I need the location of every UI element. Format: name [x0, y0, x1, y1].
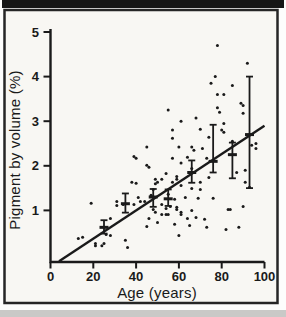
data-point: [173, 198, 176, 201]
data-point: [205, 226, 208, 229]
data-point: [130, 181, 133, 184]
data-point: [171, 137, 174, 140]
data-point: [175, 178, 178, 181]
data-point: [145, 225, 148, 228]
data-point: [115, 200, 118, 203]
data-point: [180, 211, 183, 214]
data-point: [160, 213, 163, 216]
data-point: [235, 171, 238, 174]
x-tick-label: 80: [214, 269, 228, 284]
data-point: [224, 228, 227, 231]
data-point: [242, 104, 245, 107]
data-point: [109, 234, 112, 237]
data-point: [90, 202, 93, 205]
data-point: [190, 209, 193, 212]
figure-frame: [5, 10, 278, 303]
x-tick-label: 20: [86, 269, 100, 284]
data-point: [171, 129, 174, 132]
y-tick-label: 3: [32, 114, 39, 129]
y-tick-label: 2: [32, 158, 39, 173]
data-point: [244, 181, 247, 184]
x-tick-label: 0: [47, 269, 54, 284]
data-point: [124, 239, 127, 242]
data-point: [207, 176, 210, 179]
data-point: [244, 169, 247, 172]
data-point: [171, 181, 174, 184]
data-point: [180, 184, 183, 187]
data-point: [167, 213, 170, 216]
data-point: [205, 157, 208, 160]
data-point: [171, 157, 174, 160]
data-point: [165, 172, 168, 175]
data-point: [218, 111, 221, 114]
data-point: [216, 93, 219, 96]
data-point: [173, 223, 176, 226]
data-point: [126, 246, 129, 249]
x-axis-title: Age (years): [117, 284, 197, 301]
data-point: [177, 146, 180, 149]
data-point: [115, 204, 118, 207]
data-point: [94, 242, 97, 245]
data-point: [222, 122, 225, 125]
data-point: [192, 149, 195, 152]
data-point: [103, 242, 106, 245]
scatter-plot: 12345020406080100 Age (years) Pigment by…: [0, 0, 286, 317]
data-point: [222, 131, 225, 134]
data-point: [167, 109, 170, 112]
data-point: [147, 217, 150, 220]
y-tick-label: 5: [32, 25, 39, 40]
data-point: [195, 117, 198, 120]
data-point: [254, 142, 257, 145]
data-point: [143, 200, 146, 203]
data-point: [197, 197, 200, 200]
scanned-figure-page: 12345020406080100 Age (years) Pigment by…: [0, 0, 286, 317]
scan-bottom-strip: [0, 310, 286, 317]
data-point: [220, 129, 223, 132]
x-tick-label: 100: [254, 269, 276, 284]
data-point: [210, 82, 213, 85]
top-scan-bar: [2, 0, 284, 8]
data-point: [199, 181, 202, 184]
data-point: [186, 217, 189, 220]
data-point: [175, 206, 178, 209]
data-point: [201, 147, 204, 150]
data-point: [216, 106, 219, 109]
data-point: [254, 147, 257, 150]
data-point: [152, 208, 155, 211]
data-point: [132, 203, 135, 206]
data-point: [246, 62, 249, 65]
data-point: [231, 84, 234, 87]
data-point: [239, 102, 242, 105]
data-point: [184, 196, 187, 199]
data-point: [165, 207, 168, 210]
data-point: [222, 93, 225, 96]
data-point: [199, 188, 202, 191]
data-point: [139, 200, 142, 203]
data-point: [188, 224, 191, 227]
data-point: [147, 166, 150, 169]
data-point: [137, 196, 140, 199]
data-point: [186, 156, 189, 159]
y-axis-title: Pigment by volume (%): [6, 70, 23, 229]
data-point: [250, 144, 253, 147]
data-point: [135, 157, 138, 160]
data-point: [77, 237, 80, 240]
y-tick-label: 1: [32, 203, 39, 218]
data-point: [154, 178, 157, 181]
data-point: [190, 187, 193, 190]
x-tick-label: 60: [172, 269, 186, 284]
data-point: [160, 178, 163, 181]
data-point: [242, 205, 245, 208]
data-point: [242, 112, 245, 115]
data-point: [203, 218, 206, 221]
data-point: [154, 211, 157, 214]
x-tick-label: 40: [129, 269, 143, 284]
data-point: [145, 146, 148, 149]
data-point: [156, 181, 159, 184]
data-point: [237, 226, 240, 229]
data-point: [199, 128, 202, 131]
data-point: [109, 217, 112, 220]
data-point: [195, 216, 198, 219]
data-point: [175, 175, 178, 178]
data-point: [160, 203, 163, 206]
